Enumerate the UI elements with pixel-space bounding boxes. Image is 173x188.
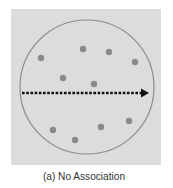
data-point <box>126 118 132 124</box>
scatter-diagram <box>0 0 173 188</box>
data-points <box>38 46 138 143</box>
data-point <box>132 59 138 65</box>
data-point <box>60 75 66 81</box>
figure-caption: (a) No Association <box>10 170 158 182</box>
data-point <box>80 46 86 52</box>
arrow-head-icon <box>141 89 149 98</box>
data-point <box>72 137 78 143</box>
no-association-figure: (a) No Association <box>0 0 173 188</box>
boundary-circle <box>20 20 154 154</box>
data-point <box>91 81 97 87</box>
data-point <box>106 49 112 55</box>
data-point <box>50 127 56 133</box>
data-point <box>98 124 104 130</box>
data-point <box>38 55 44 61</box>
